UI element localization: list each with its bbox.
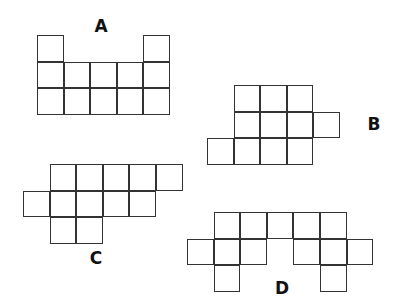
grid-cell [156,164,183,191]
shape-label-a: A [94,16,107,36]
grid-cell [129,191,156,218]
grid-cell [90,88,117,115]
grid-cell [37,88,64,115]
grid-cell [260,138,287,165]
grid-cell [214,212,241,239]
grid-cell [143,88,170,115]
grid-cell [103,164,130,191]
grid-cell [234,112,261,139]
grid-cell [287,112,314,139]
grid-cell [50,191,77,218]
grid-cell [76,191,103,218]
grid-cell [313,112,340,139]
shape-label-d: D [275,278,289,298]
grid-cell [143,62,170,89]
grid-cell [320,212,347,239]
grid-cell [50,217,77,244]
grid-cell [129,164,156,191]
grid-cell [293,212,320,239]
grid-cell [117,62,144,89]
grid-cell [76,217,103,244]
grid-cell [234,138,261,165]
grid-cell [293,239,320,266]
grid-cell [240,212,267,239]
grid-cell [234,85,261,112]
grid-cell [260,112,287,139]
grid-cell [260,85,287,112]
grid-cell [143,35,170,62]
grid-cell [267,212,294,239]
grid-cell [37,35,64,62]
grid-cell [37,62,64,89]
grid-cell [187,239,214,266]
grid-cell [64,62,91,89]
grid-cell [287,85,314,112]
grid-cell [103,191,130,218]
grid-cell [240,239,267,266]
grid-cell [117,88,144,115]
grid-cell [64,88,91,115]
shape-label-c: C [90,248,102,268]
grid-cell [320,239,347,266]
grid-cell [287,138,314,165]
grid-cell [214,265,241,292]
grid-cell [50,164,77,191]
grid-cell [23,191,50,218]
grid-cell [90,62,117,89]
grid-cell [347,239,374,266]
grid-cell [320,265,347,292]
shape-label-b: B [368,114,381,134]
grid-cell [76,164,103,191]
grid-cell [214,239,241,266]
grid-cell [207,138,234,165]
